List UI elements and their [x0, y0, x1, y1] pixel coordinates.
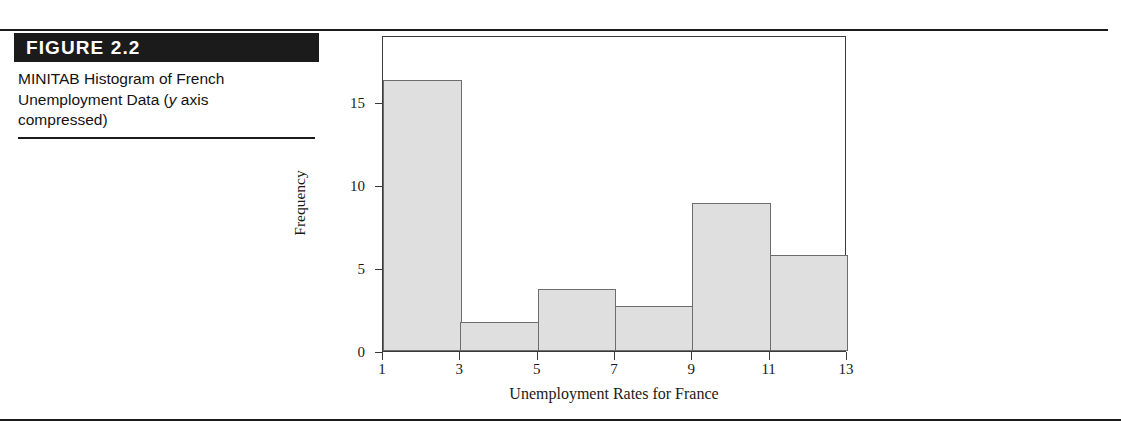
histogram-bar [460, 322, 539, 351]
x-axis-tick-label: 5 [533, 361, 541, 378]
caption-line-1: MINITAB Histogram of French [18, 70, 224, 87]
caption-line-2-pre: Unemployment Data ( [18, 91, 169, 108]
x-axis-tick [691, 352, 692, 360]
x-axis-tick-label: 9 [688, 361, 696, 378]
x-axis-tick [382, 352, 383, 360]
caption-line-3: compressed) [18, 111, 108, 128]
x-axis-tick-label: 3 [456, 361, 464, 378]
y-axis-tick-label: 5 [358, 260, 366, 277]
x-axis-title: Unemployment Rates for France [382, 385, 846, 403]
y-axis-tick-label: 10 [350, 177, 365, 194]
y-axis-tick-label: 0 [358, 344, 366, 361]
x-axis-tick [846, 352, 847, 360]
histogram-bar [770, 255, 849, 351]
histogram-bar [692, 203, 771, 351]
plot-area [382, 36, 846, 352]
caption-divider [18, 137, 315, 139]
figure-number-bar: FIGURE 2.2 [14, 33, 319, 62]
caption-italic-y: y [169, 91, 177, 108]
y-axis-tick [375, 352, 382, 353]
y-axis-tick [375, 269, 382, 270]
x-axis-tick-label: 11 [761, 361, 775, 378]
y-axis-title: Frequency [291, 170, 309, 235]
histogram-bar [615, 306, 694, 351]
histogram-bar [383, 80, 462, 351]
y-axis-tick-label: 15 [350, 94, 365, 111]
x-axis-tick-label: 7 [610, 361, 618, 378]
histogram-bar [538, 289, 617, 351]
x-axis-tick-label: 1 [378, 361, 386, 378]
x-axis-tick [459, 352, 460, 360]
bottom-rule [0, 419, 1121, 421]
y-axis-tick [375, 103, 382, 104]
figure-page: FIGURE 2.2 MINITAB Histogram of French U… [0, 0, 1121, 442]
figure-caption-block: FIGURE 2.2 MINITAB Histogram of French U… [14, 33, 319, 139]
y-axis-tick [375, 186, 382, 187]
caption-line-2-post: axis [177, 91, 209, 108]
x-axis-tick [537, 352, 538, 360]
figure-caption-text: MINITAB Histogram of French Unemployment… [14, 69, 306, 131]
x-axis-tick-label: 13 [839, 361, 854, 378]
x-axis-tick [769, 352, 770, 360]
bar-series [383, 37, 845, 351]
x-axis-tick [614, 352, 615, 360]
histogram-chart: Frequency 051015 135791113 Unemployment … [310, 30, 910, 420]
